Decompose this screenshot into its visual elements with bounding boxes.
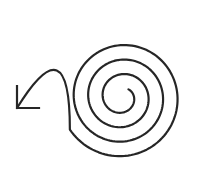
spiral-arrow-illustration [0,0,212,176]
spiral-arrow-icon [0,0,212,176]
spiral-path [17,45,178,156]
